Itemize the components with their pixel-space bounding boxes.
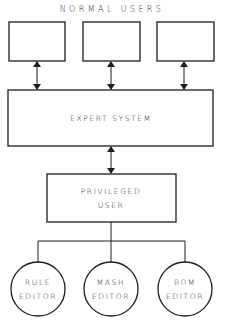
normal-user-box-2 <box>83 22 140 61</box>
privileged-user-label-line2: USER <box>98 201 125 210</box>
bom-editor-line1: BOM <box>174 278 196 287</box>
mash-editor-circle <box>84 262 138 316</box>
privileged-user-box <box>47 174 176 222</box>
normal-user-box-3 <box>157 22 214 61</box>
rule-editor-line1: RULE <box>25 278 51 287</box>
system-diagram: NORMAL USERS EXPERT SYSTEM PRIVILEGED US… <box>0 0 225 329</box>
normal-user-box-1 <box>9 22 65 61</box>
rule-editor-line2: EDITOR <box>19 292 57 301</box>
bom-editor-line2: EDITOR <box>166 292 204 301</box>
mash-editor-line2: EDITOR <box>92 292 130 301</box>
rule-editor-circle <box>11 262 65 316</box>
mash-editor-line1: MASH <box>97 278 125 287</box>
bom-editor-circle <box>158 262 212 316</box>
privileged-user-label-line1: PRIVILEGED <box>81 187 142 196</box>
normal-users-title: NORMAL USERS <box>60 5 165 14</box>
expert-system-label: EXPERT SYSTEM <box>70 114 151 123</box>
